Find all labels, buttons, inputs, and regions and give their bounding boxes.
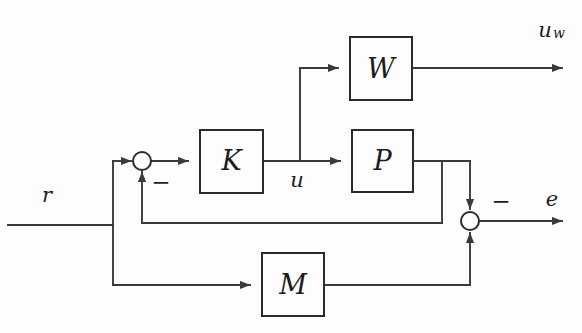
signal-label-e: e bbox=[546, 187, 558, 211]
block-P-label: P bbox=[372, 145, 392, 176]
block-diagram-svg: W K P M − − r u u w e bbox=[0, 0, 582, 333]
summing-junction-right[interactable] bbox=[461, 212, 479, 230]
block-M-label: M bbox=[278, 269, 308, 300]
summing-junction-left[interactable] bbox=[133, 152, 151, 170]
signal-label-uw-subscript: w bbox=[553, 25, 565, 41]
signal-label-uw: u bbox=[538, 18, 552, 42]
minus-sign-left: − bbox=[151, 169, 170, 195]
signal-label-u: u bbox=[290, 168, 304, 192]
block-W-label: W bbox=[367, 53, 397, 84]
minus-sign-right: − bbox=[491, 188, 510, 214]
block-diagram-canvas: W K P M − − r u u w e bbox=[0, 0, 582, 333]
block-K-label: K bbox=[220, 145, 243, 176]
signal-label-r: r bbox=[42, 183, 54, 207]
